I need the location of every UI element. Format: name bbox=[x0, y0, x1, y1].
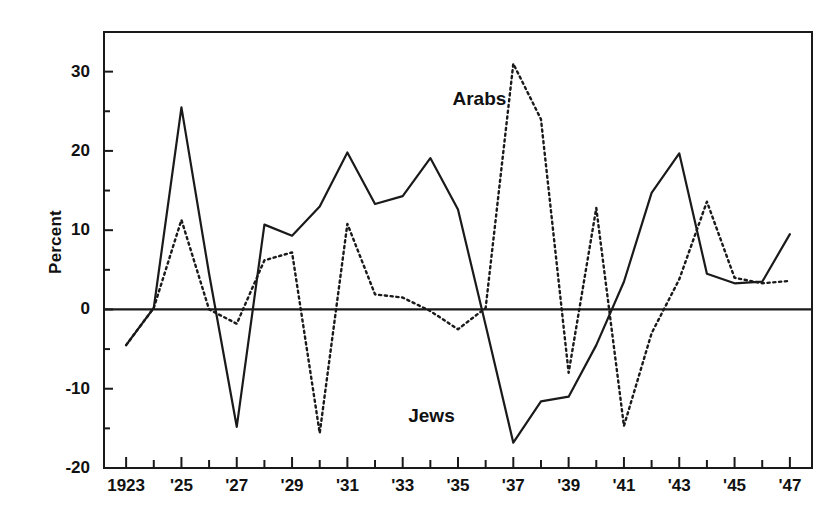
y-tick-label: 0 bbox=[0, 299, 90, 319]
x-tick-label: '43 bbox=[668, 476, 691, 496]
line-chart-svg bbox=[0, 0, 838, 518]
x-tick-label: '33 bbox=[391, 476, 414, 496]
x-tick-label: '31 bbox=[336, 476, 359, 496]
x-tick-label: '41 bbox=[612, 476, 635, 496]
x-tick-label: '47 bbox=[778, 476, 801, 496]
y-axis-ticks bbox=[104, 72, 113, 468]
x-tick-label: '27 bbox=[225, 476, 248, 496]
x-axis-ticks bbox=[126, 457, 790, 468]
y-tick-label: 30 bbox=[0, 62, 90, 82]
y-tick-label: 10 bbox=[0, 220, 90, 240]
x-tick-label: '25 bbox=[170, 476, 193, 496]
series-line-arabs bbox=[126, 64, 790, 433]
x-tick-label: 1923 bbox=[107, 476, 145, 496]
series-label-arabs: Arabs bbox=[452, 88, 506, 110]
y-tick-label: -20 bbox=[0, 458, 90, 478]
x-tick-label: '29 bbox=[281, 476, 304, 496]
y-axis-title: Percent bbox=[46, 182, 66, 302]
x-tick-label: '45 bbox=[723, 476, 746, 496]
x-tick-label: '35 bbox=[447, 476, 470, 496]
y-tick-label: -10 bbox=[0, 379, 90, 399]
series-line-jews bbox=[126, 107, 790, 442]
series-label-jews: Jews bbox=[408, 405, 454, 427]
chart-container: Percent Arabs Jews -20-1001020301923'25'… bbox=[0, 0, 838, 518]
y-tick-label: 20 bbox=[0, 141, 90, 161]
x-tick-label: '37 bbox=[502, 476, 525, 496]
x-tick-label: '39 bbox=[557, 476, 580, 496]
